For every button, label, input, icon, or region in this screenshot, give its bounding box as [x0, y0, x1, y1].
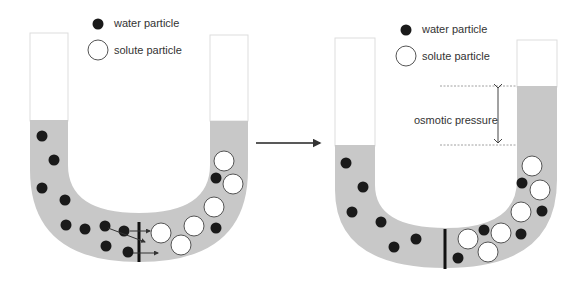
water-particle-label: water particle: [421, 23, 487, 35]
solute-particle-legend-icon: [396, 46, 416, 66]
right-arm-empty: [210, 35, 248, 121]
left-arm-empty: [335, 38, 375, 146]
solute-particle-legend-icon: [88, 40, 108, 60]
left-legend: water particle solute particle: [88, 17, 182, 60]
water-particle-legend-icon: [401, 25, 412, 36]
right-u-tube: osmotic pressure: [335, 38, 557, 269]
osmosis-diagram: water particle solute particle osmotic p…: [0, 0, 583, 285]
osmotic-pressure-label: osmotic pressure: [414, 114, 498, 126]
water-particle-legend-icon: [93, 19, 104, 30]
right-arm-empty: [517, 40, 557, 87]
water-particle-label: water particle: [113, 17, 179, 29]
solute-particle-label: solute particle: [422, 50, 490, 62]
left-arm-empty: [30, 33, 68, 121]
right-legend: water particle solute particle: [396, 23, 490, 66]
left-u-tube: [30, 33, 248, 262]
solute-particle-label: solute particle: [114, 44, 182, 56]
